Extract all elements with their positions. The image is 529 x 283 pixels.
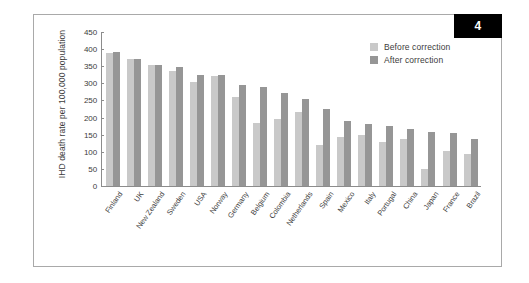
y-tick-mark bbox=[101, 186, 104, 187]
bar-before-correction[interactable] bbox=[106, 53, 113, 186]
chart-legend: Before correction After correction bbox=[370, 42, 450, 65]
square-swatch-icon bbox=[370, 56, 378, 64]
bar-group[interactable] bbox=[207, 32, 228, 186]
y-tick-label: 350 bbox=[67, 62, 97, 71]
bar-group[interactable] bbox=[313, 32, 334, 186]
bar-before-correction[interactable] bbox=[400, 139, 407, 186]
legend-label-before: Before correction bbox=[384, 42, 450, 52]
bar-after-correction[interactable] bbox=[113, 52, 120, 186]
bar-before-correction[interactable] bbox=[190, 82, 197, 186]
bar-after-correction[interactable] bbox=[386, 126, 393, 186]
bar-after-correction[interactable] bbox=[281, 93, 288, 186]
legend-label-after: After correction bbox=[384, 55, 443, 65]
y-tick-label: 150 bbox=[67, 130, 97, 139]
bar-before-correction[interactable] bbox=[421, 169, 428, 186]
bar-group[interactable] bbox=[144, 32, 165, 186]
bar-before-correction[interactable] bbox=[127, 59, 134, 186]
bar-before-correction[interactable] bbox=[443, 151, 450, 186]
bar-after-correction[interactable] bbox=[155, 65, 162, 186]
bar-after-correction[interactable] bbox=[450, 133, 457, 186]
y-tick-label: 0 bbox=[67, 182, 97, 191]
x-tick-label: Sweden bbox=[165, 190, 188, 217]
y-tick-label: 400 bbox=[67, 45, 97, 54]
bar-after-correction[interactable] bbox=[134, 59, 141, 186]
square-swatch-icon bbox=[370, 43, 378, 51]
y-tick-label: 200 bbox=[67, 113, 97, 122]
bar-group[interactable] bbox=[271, 32, 292, 186]
x-tick-label: France bbox=[441, 190, 461, 214]
bar-group[interactable] bbox=[186, 32, 207, 186]
bar-after-correction[interactable] bbox=[365, 124, 372, 186]
x-tick-label: UK bbox=[132, 190, 145, 204]
figure-frame: 4 IHD death rate per 100,000 population … bbox=[33, 14, 502, 267]
y-tick-label: 300 bbox=[67, 79, 97, 88]
bar-after-correction[interactable] bbox=[323, 109, 330, 186]
x-tick-label: Portugal bbox=[375, 190, 398, 217]
legend-item-after: After correction bbox=[370, 55, 450, 65]
y-tick-label: 100 bbox=[67, 147, 97, 156]
bar-after-correction[interactable] bbox=[239, 85, 246, 186]
bar-after-correction[interactable] bbox=[302, 99, 309, 186]
x-tick-label: Japan bbox=[422, 190, 441, 211]
x-tick-label: China bbox=[401, 190, 419, 211]
x-tick-label: Spain bbox=[317, 190, 335, 210]
bar-group[interactable] bbox=[292, 32, 313, 186]
bar-after-correction[interactable] bbox=[471, 139, 478, 186]
bar-group[interactable] bbox=[460, 32, 481, 186]
bar-before-correction[interactable] bbox=[316, 145, 323, 186]
figure-number-label: 4 bbox=[474, 19, 481, 33]
y-axis-title: IHD death rate per 100,000 population bbox=[57, 14, 67, 194]
bar-group[interactable] bbox=[334, 32, 355, 186]
bar-before-correction[interactable] bbox=[232, 97, 239, 186]
bar-before-correction[interactable] bbox=[274, 119, 281, 186]
x-tick-label: Brazil bbox=[465, 190, 483, 210]
bar-after-correction[interactable] bbox=[344, 121, 351, 186]
legend-item-before: Before correction bbox=[370, 42, 450, 52]
bar-after-correction[interactable] bbox=[428, 132, 435, 186]
bar-before-correction[interactable] bbox=[358, 135, 365, 186]
y-tick-label: 250 bbox=[67, 96, 97, 105]
x-tick-label: USA bbox=[192, 190, 208, 208]
bar-group[interactable] bbox=[165, 32, 186, 186]
bar-before-correction[interactable] bbox=[379, 142, 386, 186]
figure-root: 4 IHD death rate per 100,000 population … bbox=[0, 0, 529, 283]
bar-before-correction[interactable] bbox=[295, 112, 302, 186]
bar-after-correction[interactable] bbox=[260, 87, 267, 186]
bar-group[interactable] bbox=[123, 32, 144, 186]
bar-after-correction[interactable] bbox=[218, 75, 225, 186]
bar-after-correction[interactable] bbox=[176, 67, 183, 186]
y-tick-label: 50 bbox=[67, 164, 97, 173]
bar-before-correction[interactable] bbox=[253, 123, 260, 186]
x-tick-label: Mexico bbox=[335, 190, 356, 214]
x-axis-labels: FinlandUKNew ZealandSwedenUSANorwayGerma… bbox=[101, 190, 481, 270]
bar-before-correction[interactable] bbox=[464, 154, 471, 186]
bar-group[interactable] bbox=[102, 32, 123, 186]
y-tick-label: 450 bbox=[67, 28, 97, 37]
bar-after-correction[interactable] bbox=[197, 75, 204, 186]
bar-before-correction[interactable] bbox=[337, 137, 344, 186]
x-axis-line bbox=[101, 186, 481, 187]
x-tick-label: Italy bbox=[362, 190, 377, 206]
bar-group[interactable] bbox=[228, 32, 249, 186]
bar-after-correction[interactable] bbox=[407, 129, 414, 186]
bar-before-correction[interactable] bbox=[148, 65, 155, 186]
bar-before-correction[interactable] bbox=[169, 71, 176, 186]
bar-before-correction[interactable] bbox=[211, 76, 218, 186]
bar-group[interactable] bbox=[249, 32, 270, 186]
x-tick-label: Finland bbox=[103, 190, 124, 215]
